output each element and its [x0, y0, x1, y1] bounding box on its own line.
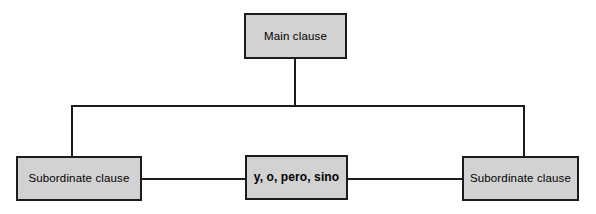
node-subordinate-clause-right-label: Subordinate clause: [470, 172, 571, 185]
node-conjunctions: y, o, pero, sino: [245, 155, 348, 200]
node-subordinate-clause-right: Subordinate clause: [462, 156, 579, 201]
node-subordinate-clause-left: Subordinate clause: [16, 156, 142, 201]
connector-conjunctions-to-right: [348, 178, 462, 180]
node-subordinate-clause-left-label: Subordinate clause: [28, 172, 129, 185]
connector-left-drop: [71, 105, 73, 156]
connector-left-to-conjunctions: [142, 178, 245, 180]
diagram-canvas: Main clause Subordinate clause y, o, per…: [0, 0, 596, 214]
node-main-clause: Main clause: [244, 13, 347, 59]
connector-branch-bus: [71, 105, 525, 107]
node-main-clause-label: Main clause: [264, 30, 327, 43]
node-conjunctions-label: y, o, pero, sino: [254, 171, 339, 184]
connector-right-drop: [523, 105, 525, 156]
connector-main-clause-stem: [294, 59, 296, 106]
